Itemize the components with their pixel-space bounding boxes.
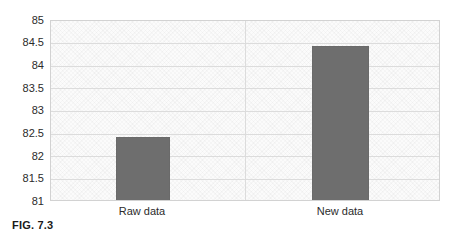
y-axis-tick-label: 82 xyxy=(0,151,44,162)
y-axis-tick-label: 81.5 xyxy=(0,173,44,184)
y-axis-tick-label: 81 xyxy=(0,196,44,207)
y-axis-tick-label: 83.5 xyxy=(0,83,44,94)
y-axis-tick-label: 84 xyxy=(0,60,44,71)
y-axis-tick-label: 85 xyxy=(0,15,44,26)
bar-raw-data[interactable] xyxy=(116,137,170,201)
y-axis-tick-label: 82.5 xyxy=(0,128,44,139)
plot-area xyxy=(50,20,440,201)
x-axis-tick-label-raw-data: Raw data xyxy=(82,205,202,217)
figure-caption: FIG. 7.3 xyxy=(12,219,53,231)
y-axis-tick-label: 83 xyxy=(0,105,44,116)
figure: 85 84.5 84 83.5 83 82.5 82 81.5 81 xyxy=(0,0,456,239)
gridline-vertical xyxy=(245,21,246,200)
bar-chart: 85 84.5 84 83.5 83 82.5 82 81.5 81 xyxy=(0,0,456,212)
x-axis-tick-label-new-data: New data xyxy=(280,205,400,217)
y-axis-tick-label: 84.5 xyxy=(0,37,44,48)
bar-new-data[interactable] xyxy=(312,46,369,201)
